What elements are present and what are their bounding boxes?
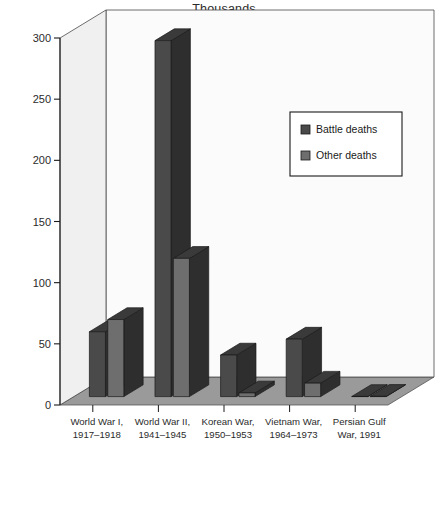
bar-front-face — [155, 41, 171, 397]
x-axis-category-label: World War II, — [135, 416, 190, 427]
chart-container: Thousands 050100150200250300World War I,… — [0, 0, 448, 509]
bar-front-face — [286, 339, 302, 397]
y-axis-tick-label: 0 — [45, 399, 51, 411]
bar-side-face — [189, 247, 208, 397]
bar-side-face — [124, 308, 143, 397]
legend-label: Other deaths — [316, 149, 377, 161]
y-axis-tick-label: 250 — [33, 93, 51, 105]
legend-label: Battle deaths — [316, 123, 377, 135]
bar-front-face — [305, 383, 321, 396]
x-axis-category-label: 1941–1945 — [138, 429, 186, 440]
y-axis-tick-label: 100 — [33, 277, 51, 289]
bar-front-face — [239, 393, 255, 397]
legend-box — [290, 112, 402, 176]
legend-swatch — [301, 151, 310, 160]
y-axis-tick-label: 150 — [33, 216, 51, 228]
bar-front-face — [89, 332, 105, 397]
chart-svg: 050100150200250300World War I,1917–1918W… — [0, 0, 448, 509]
y-axis-tick-label: 50 — [39, 338, 51, 350]
x-axis-category-label: War, 1991 — [338, 429, 381, 440]
y-axis-tick-label: 300 — [33, 32, 51, 44]
x-axis-category-label: Persian Gulf — [333, 416, 386, 427]
x-axis-category-label: 1917–1918 — [73, 429, 121, 440]
legend-swatch — [301, 125, 310, 134]
x-axis-category-label: World War I, — [70, 416, 123, 427]
bar-front-face — [221, 355, 237, 397]
x-axis-category-label: Korean War, — [202, 416, 255, 427]
x-axis-category-label: Vietnam War, — [265, 416, 322, 427]
bar-front-face — [173, 258, 189, 396]
x-axis-category-label: 1950–1953 — [204, 429, 252, 440]
y-axis-tick-label: 200 — [33, 154, 51, 166]
x-axis-category-label: 1964–1973 — [270, 429, 318, 440]
bar-front-face — [108, 320, 124, 397]
